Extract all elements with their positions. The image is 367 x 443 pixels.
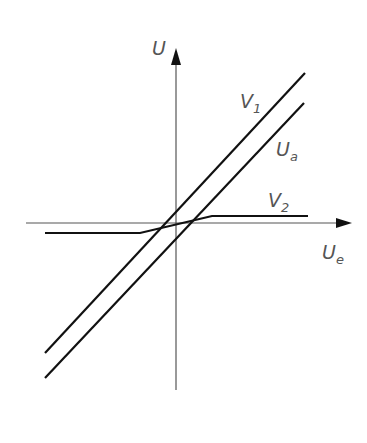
label-v1: V1 (240, 90, 261, 116)
curve-v1 (45, 73, 305, 353)
diagram-canvas: U Ue V1 Ua V2 (0, 0, 367, 443)
y-axis-arrow-icon (171, 48, 181, 65)
x-axis-arrow-icon (336, 218, 352, 228)
label-v2: V2 (268, 189, 289, 215)
label-ua: Ua (276, 138, 298, 164)
x-axis-label: Ue (322, 241, 344, 267)
y-axis-label: U (152, 37, 166, 59)
curve-ua (45, 103, 304, 378)
